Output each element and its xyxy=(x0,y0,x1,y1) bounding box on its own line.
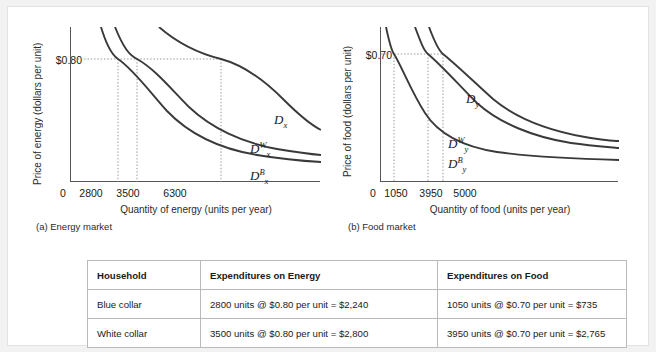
x-tick-1050: 1050 xyxy=(384,187,407,199)
curve-label-dy: Dy xyxy=(466,91,479,109)
panel-caption-energy: (a) Energy market xyxy=(36,221,112,232)
table-head: Household Expenditures on Energy Expendi… xyxy=(88,261,627,290)
curves-svg-food xyxy=(381,27,619,182)
x-axis-origin-food: 0 xyxy=(370,187,376,199)
x-axis-label-energy: Quantity of energy (units per year) xyxy=(70,204,322,215)
curve-dx xyxy=(159,27,321,130)
table-row: White collar 3500 units @ $0.80 per unit… xyxy=(88,319,627,348)
expenditure-table: Household Expenditures on Energy Expendi… xyxy=(87,260,627,348)
curve-label-dy-w-sub: y xyxy=(464,144,468,154)
curve-label-dy-b-sub: y xyxy=(463,164,467,174)
table-header-energy: Expenditures on Energy xyxy=(201,261,438,290)
curve-label-dx-b-base: D xyxy=(250,168,259,183)
curve-dx-w xyxy=(115,27,321,155)
figure-page: Price of energy (dollars per unit) $0.80 xyxy=(8,7,648,345)
curve-label-dy-base: D xyxy=(466,91,475,106)
curve-dx-b xyxy=(101,27,321,162)
curve-label-dx-w-base: D xyxy=(250,141,259,156)
cell-food-blue: 1050 units @ $0.70 per unit = $735 xyxy=(438,290,627,319)
table-body: Blue collar 2800 units @ $0.80 per unit … xyxy=(88,290,627,348)
curve-label-dx-b: DBx xyxy=(250,167,268,186)
y-axis-label-food: Price of food (dollars per unit) xyxy=(342,25,353,177)
curve-label-dx-w-sub: x xyxy=(266,149,270,159)
table-header-food: Expenditures on Food xyxy=(438,261,627,290)
x-tick-3950: 3950 xyxy=(419,187,442,199)
curve-label-dy-b-base: D xyxy=(448,156,457,171)
curve-dy-w xyxy=(415,27,619,148)
x-tick-6300: 6300 xyxy=(163,187,186,199)
curves-svg-energy xyxy=(71,27,321,182)
curve-label-dy-w: DWy xyxy=(448,135,468,154)
curve-label-dx-base: D xyxy=(274,112,283,127)
charts-row: Price of energy (dollars per unit) $0.80 xyxy=(8,7,648,239)
cell-food-white: 3950 units @ $0.70 per unit = $2,765 xyxy=(438,319,627,348)
table-header-row: Household Expenditures on Energy Expendi… xyxy=(88,261,627,290)
cell-household-white: White collar xyxy=(88,319,201,348)
plot-area-food xyxy=(380,27,618,182)
curve-label-dy-w-base: D xyxy=(448,136,457,151)
chart-panel-food: Price of food (dollars per unit) $0.70 xyxy=(338,7,638,239)
cell-energy-white: 3500 units @ $0.80 per unit = $2,800 xyxy=(201,319,438,348)
curve-label-dx-sub: x xyxy=(283,120,287,130)
x-axis-origin-energy: 0 xyxy=(60,187,66,199)
x-axis-label-food: Quantity of food (units per year) xyxy=(380,204,620,215)
table-header-household: Household xyxy=(88,261,201,290)
curve-label-dx-b-sub: x xyxy=(265,176,269,186)
plot-area-energy xyxy=(70,27,320,182)
curve-dy-b xyxy=(386,27,619,160)
x-tick-5000: 5000 xyxy=(453,187,476,199)
curve-label-dx: Dx xyxy=(274,112,287,130)
x-tick-3500: 3500 xyxy=(116,187,139,199)
y-axis-label-energy: Price of energy (dollars per unit) xyxy=(32,25,43,185)
cell-energy-blue: 2800 units @ $0.80 per unit = $2,240 xyxy=(201,290,438,319)
x-tick-2800: 2800 xyxy=(79,187,102,199)
panel-caption-food: (b) Food market xyxy=(348,221,416,232)
cell-household-blue: Blue collar xyxy=(88,290,201,319)
curve-label-dx-w: DWx xyxy=(250,140,270,159)
curve-label-dy-sub: y xyxy=(475,99,479,109)
expenditure-table-wrap: Household Expenditures on Energy Expendi… xyxy=(87,260,569,348)
chart-panel-energy: Price of energy (dollars per unit) $0.80 xyxy=(18,7,338,239)
curve-label-dy-b: DBy xyxy=(448,155,466,174)
table-row: Blue collar 2800 units @ $0.80 per unit … xyxy=(88,290,627,319)
